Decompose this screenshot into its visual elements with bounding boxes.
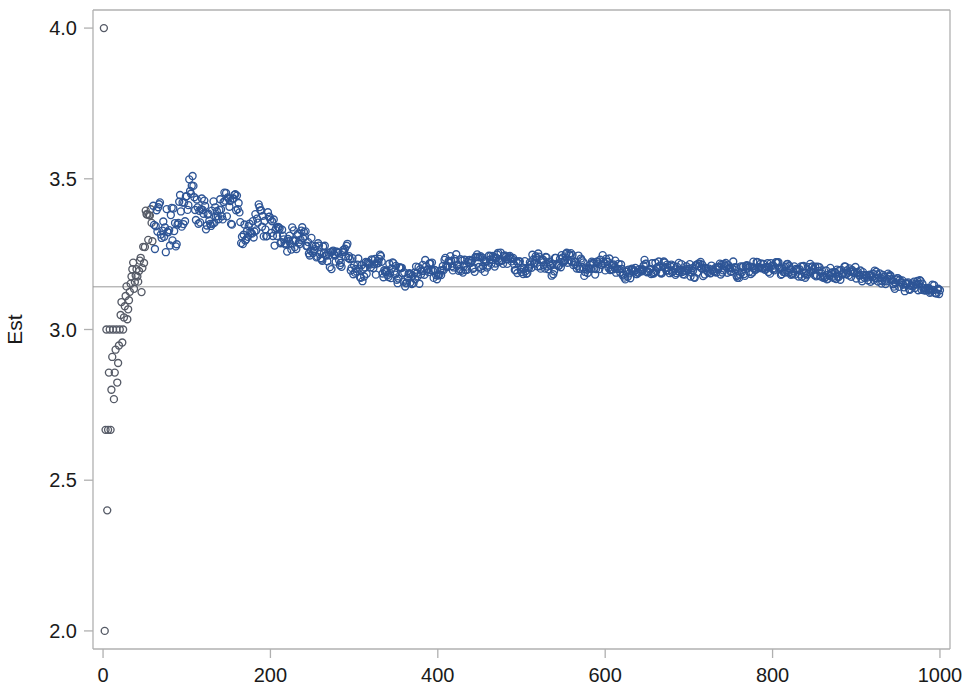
y-tick-label-0: 2.0	[49, 620, 77, 642]
y-tick-label-3: 3.5	[49, 168, 77, 190]
x-tick-label-5: 1000	[918, 664, 963, 686]
chart-figure: 2.02.53.03.54.002004006008001000Est	[0, 0, 970, 697]
y-tick-label-2: 3.0	[49, 319, 77, 341]
x-tick-label-2: 400	[421, 664, 454, 686]
y-tick-label-4: 4.0	[49, 17, 77, 39]
scatter-plot: 2.02.53.03.54.002004006008001000Est	[0, 0, 970, 697]
plot-background	[93, 10, 950, 649]
x-tick-label-3: 600	[589, 664, 622, 686]
x-tick-label-1: 200	[254, 664, 287, 686]
y-axis-title: Est	[3, 314, 26, 345]
x-tick-label-4: 800	[756, 664, 789, 686]
x-tick-label-0: 0	[97, 664, 108, 686]
y-tick-label-1: 2.5	[49, 469, 77, 491]
